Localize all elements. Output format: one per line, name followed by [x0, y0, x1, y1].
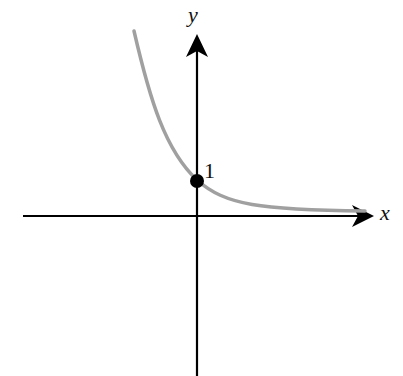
y-intercept-label: 1	[204, 158, 215, 184]
exponential-decay-graph: y x 1	[0, 0, 403, 376]
y-axis-label: y	[188, 2, 198, 28]
x-axis-label: x	[380, 200, 390, 226]
y-intercept-point	[190, 174, 204, 188]
chart-canvas	[0, 0, 403, 376]
decay-curve	[134, 31, 365, 211]
